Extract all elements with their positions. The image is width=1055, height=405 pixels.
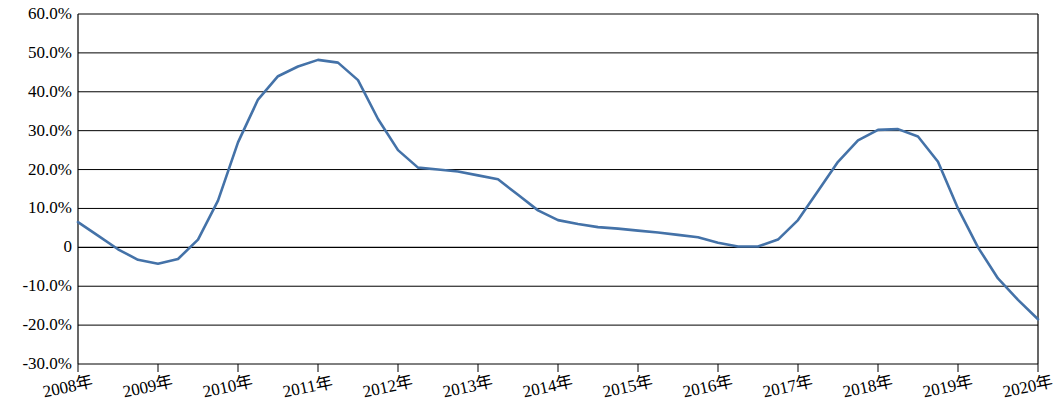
x-axis-tick-label: 2008年 — [40, 367, 95, 402]
x-axis-tick-label: 2012年 — [360, 367, 415, 402]
x-axis-tick-label: 2016年 — [680, 367, 735, 402]
x-axis-tick-label: 2011年 — [280, 368, 334, 403]
x-axis-tick-label: 2015年 — [600, 367, 655, 402]
x-axis-tick-label: 2017年 — [760, 367, 815, 402]
x-axis-tick-label: 2014年 — [520, 367, 575, 402]
x-axis-tick-label: 2020年 — [1000, 367, 1055, 402]
x-axis-tick-label: 2019年 — [920, 367, 975, 402]
x-axis-tick-label: 2009年 — [120, 367, 175, 402]
x-axis-tick-label: 2013年 — [440, 367, 495, 402]
x-axis-tick-label: 2018年 — [840, 367, 895, 402]
x-axis-tick-label: 2010年 — [200, 367, 255, 402]
